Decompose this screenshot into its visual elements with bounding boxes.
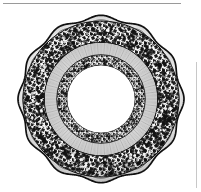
plate-engraving-figure: Scalloped plate with floral border [0,0,201,192]
plate-illustration [0,0,201,192]
